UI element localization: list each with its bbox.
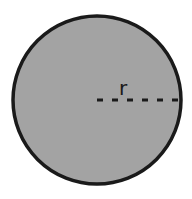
circle-diagram: r [0, 0, 192, 199]
radius-label: r [119, 76, 128, 100]
